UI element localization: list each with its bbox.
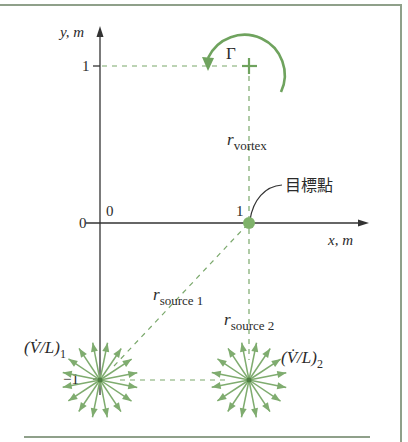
source1-arrowhead-icon xyxy=(102,343,109,353)
target-point-label: 目標點 xyxy=(285,176,333,195)
source1-arrowhead-icon xyxy=(79,348,87,357)
source2-strength: (V̇/L) xyxy=(281,348,317,367)
source2-arrowhead-icon xyxy=(262,402,270,411)
r-source1-subscript: source 1 xyxy=(160,293,204,308)
source2-arrowhead-icon xyxy=(217,359,226,367)
target-point-marker xyxy=(243,217,255,229)
source2-arrowhead-icon xyxy=(212,371,222,378)
source1-arrowhead-icon xyxy=(68,393,77,401)
source2-arrowhead-icon xyxy=(271,359,280,367)
vortex-circulation-symbol: Γ xyxy=(226,44,236,63)
x-axis-arrow-icon xyxy=(358,220,369,227)
source1-arrowhead-icon xyxy=(113,402,121,411)
r-vortex-label: rvortex xyxy=(227,130,267,153)
source2-arrowhead-icon xyxy=(277,371,287,378)
source1-strength-subscript: 1 xyxy=(60,347,66,361)
source2-strength-label: (V̇/L)2 xyxy=(281,348,323,371)
source2-arrowhead-icon xyxy=(262,348,270,357)
source1-arrowhead-icon xyxy=(128,382,138,389)
r-source2-subscript: source 2 xyxy=(231,318,275,333)
source1-arrowhead-icon xyxy=(91,343,98,353)
source2-arrowhead-icon xyxy=(240,408,247,418)
vortex-arrowhead-icon xyxy=(202,57,214,71)
source2-center xyxy=(247,378,252,383)
source2-arrowhead-icon xyxy=(212,382,222,389)
source2-arrowhead-icon xyxy=(251,408,258,418)
target-leader-line xyxy=(250,185,282,220)
x-axis-label: x, m xyxy=(327,232,353,248)
y-axis-label: y, m xyxy=(58,24,84,40)
y-tick-label-0: 0 xyxy=(79,215,87,231)
flow-superposition-diagram: y, m x, m 1 0 −1 0 1 Γ rvortex rsource 1… xyxy=(0,0,408,442)
source1-strength-label: (V̇/L)1 xyxy=(24,338,66,361)
source2-arrowhead-icon xyxy=(217,393,226,401)
x-tick-label-1: 1 xyxy=(236,203,244,219)
source2-arrowhead-icon xyxy=(228,348,236,357)
vortex-rotation-arc xyxy=(208,35,285,92)
y-axis-arrow-icon xyxy=(97,26,104,37)
r-vortex-subscript: vortex xyxy=(234,138,268,153)
source2-arrowhead-icon xyxy=(240,343,247,353)
vortex: Γ xyxy=(202,35,285,92)
source1-arrowhead-icon xyxy=(102,408,109,418)
source2-arrowhead-icon xyxy=(277,382,287,389)
source2-arrowhead-icon xyxy=(251,343,258,353)
source1-arrowhead-icon xyxy=(128,371,138,378)
source1-arrowhead-icon xyxy=(122,393,131,401)
x-tick-label-0: 0 xyxy=(106,203,114,219)
r-source1-label: rsource 1 xyxy=(153,285,203,308)
source2-arrowhead-icon xyxy=(228,402,236,411)
source1-arrowhead-icon xyxy=(122,359,131,367)
source1-arrowhead-icon xyxy=(91,408,98,418)
y-tick-label-1: 1 xyxy=(82,58,90,74)
source1-strength: (V̇/L) xyxy=(24,338,60,357)
source1-arrowhead-icon xyxy=(68,359,77,367)
source1-arrowhead-icon xyxy=(79,402,87,411)
source2-strength-subscript: 2 xyxy=(317,357,323,371)
source1-arrowhead-icon xyxy=(113,348,121,357)
source2-arrowhead-icon xyxy=(271,393,280,401)
source1-center xyxy=(98,378,103,383)
